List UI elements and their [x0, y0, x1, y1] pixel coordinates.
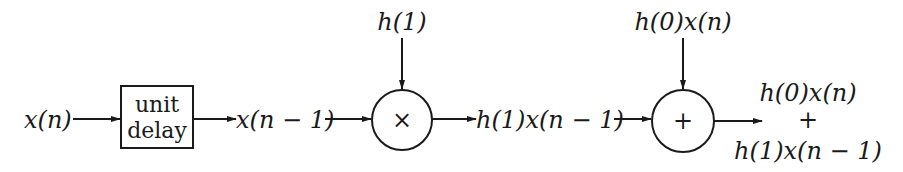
plus-symbol: +	[673, 107, 693, 135]
input-label: x(n)	[24, 106, 72, 134]
output-term-1: h(0)x(n)	[759, 79, 856, 107]
multiplier-node: ×	[372, 90, 432, 150]
output-term-2: h(1)x(n − 1)	[734, 137, 882, 165]
output-plus: +	[798, 106, 818, 134]
delay-label-line2: delay	[127, 118, 187, 143]
product-label: h(1)x(n − 1)	[476, 106, 624, 134]
delay-label-line1: unit	[135, 92, 179, 117]
fir-filter-diagram: x(n) unit delay x(n − 1) h(1) × h(1)x(n …	[0, 0, 903, 172]
unit-delay-block: unit delay	[121, 86, 193, 148]
delayed-signal-label: x(n − 1)	[236, 106, 334, 134]
adder-node: +	[652, 90, 714, 152]
multiply-symbol: ×	[392, 106, 412, 134]
coefficient-label: h(1)	[377, 8, 426, 36]
adder-side-input-label: h(0)x(n)	[634, 8, 731, 36]
